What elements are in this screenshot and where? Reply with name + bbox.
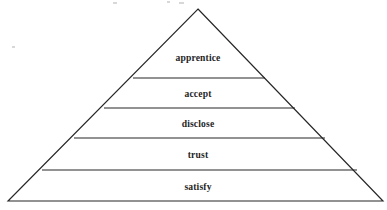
tier-label-satisfy: satisfy	[184, 181, 211, 192]
pyramid-outline	[8, 9, 383, 201]
tier-label-trust: trust	[188, 149, 209, 160]
tier-label-disclose: disclose	[182, 118, 215, 129]
scan-artifacts	[12, 1, 184, 48]
pyramid-figure: apprentice accept disclose trust satisfy	[0, 0, 387, 210]
tier-label-accept: accept	[184, 88, 212, 99]
pyramid-diagram: apprentice accept disclose trust satisfy	[0, 0, 387, 210]
tier-label-apprentice: apprentice	[175, 52, 221, 63]
